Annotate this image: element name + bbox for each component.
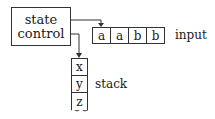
stack-cell: y <box>71 75 88 93</box>
state-control-label-line2: control <box>18 27 65 41</box>
input-cell: a <box>110 27 129 44</box>
input-cell: a <box>92 27 111 44</box>
state-control-box: state control <box>11 7 71 46</box>
input-cell: b <box>146 27 165 44</box>
state-control-label-line1: state <box>25 13 58 27</box>
stack-cell: z <box>71 92 88 110</box>
stack-cell: x <box>71 58 88 76</box>
stack-top-connector <box>71 34 79 55</box>
input-cell: b <box>128 27 147 44</box>
stack: x y z <box>71 58 88 110</box>
stack-label: stack <box>95 77 127 91</box>
input-label: input <box>175 28 207 42</box>
input-head-connector <box>71 20 101 25</box>
input-tape: a a b b <box>92 27 165 44</box>
